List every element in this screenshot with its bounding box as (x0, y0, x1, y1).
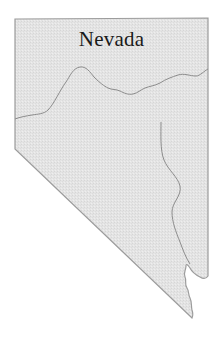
state-title: Nevada (0, 27, 223, 52)
state-boundary (15, 18, 208, 318)
state-outline-svg (0, 0, 223, 347)
nevada-map: Nevada (0, 0, 223, 347)
